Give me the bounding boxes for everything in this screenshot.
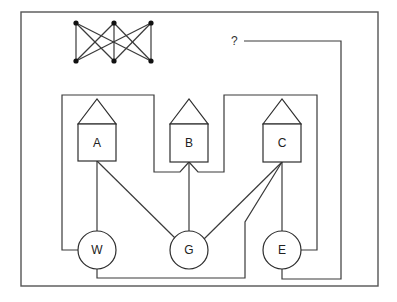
k33-node-top-1 [73,20,78,25]
house-A-label: A [93,136,101,150]
house-B-label: B [185,136,193,150]
utility-W: W [78,231,116,269]
utility-E: E [263,231,301,269]
house-C-roof [263,99,301,124]
k33-node-top-2 [111,20,116,25]
house-C-label: C [278,136,287,150]
house-B-roof [170,99,208,124]
utility-G: G [170,231,208,269]
wire-C-to-G [204,162,282,239]
utility-W-label: W [91,243,103,257]
k33-node-top-3 [148,20,153,25]
utility-E-label: E [278,243,286,257]
k33-inset-graph [73,20,153,63]
wire-W-to-B [62,95,189,250]
house-B: B [170,99,208,162]
house-A: A [78,99,116,161]
wire-B-to-E [189,95,317,250]
k33-node-bottom-3 [148,58,153,63]
utilities-diagram: ? A B C W G [0,0,397,302]
house-C: C [263,99,301,162]
k33-node-bottom-2 [111,58,116,63]
k33-node-bottom-1 [73,58,78,63]
question-mark-label: ? [231,34,238,48]
house-A-roof [78,99,116,124]
utility-G-label: G [184,243,193,257]
k33-edges [76,23,151,61]
